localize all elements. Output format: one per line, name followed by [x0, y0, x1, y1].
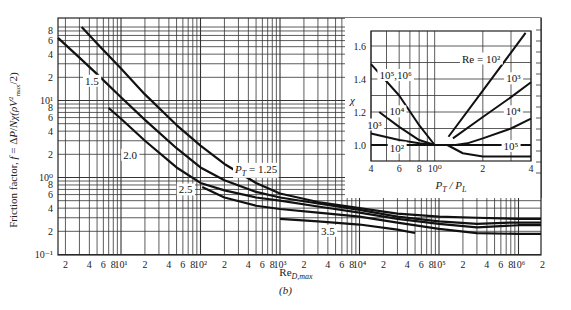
svg-text:10⁰: 10⁰ — [39, 172, 53, 183]
svg-text:10⁴: 10⁴ — [506, 105, 521, 117]
svg-text:4: 4 — [48, 49, 53, 60]
svg-text:4: 4 — [87, 259, 92, 270]
svg-text:2: 2 — [540, 259, 545, 270]
svg-text:4: 4 — [48, 126, 53, 137]
svg-text:2: 2 — [48, 226, 53, 237]
svg-text:4: 4 — [246, 259, 251, 270]
friction-factor-chart: 246810¹246810²246810³246810⁴246810⁵24681… — [0, 0, 571, 310]
y-axis-label: Friction factor, f = ΔP/Nχ(ρV2max/2) — [7, 72, 22, 228]
svg-text:10⁴: 10⁴ — [389, 105, 404, 117]
svg-text:2: 2 — [222, 259, 227, 270]
svg-text:1.4: 1.4 — [354, 74, 367, 85]
svg-text:2: 2 — [48, 72, 53, 83]
svg-text:10³: 10³ — [367, 119, 382, 131]
svg-text:4: 4 — [405, 259, 410, 270]
svg-text:10³: 10³ — [506, 72, 521, 84]
svg-text:4: 4 — [484, 259, 489, 270]
svg-text:1.2: 1.2 — [354, 107, 367, 118]
svg-text:4: 4 — [369, 163, 374, 174]
svg-text:8: 8 — [48, 25, 53, 36]
svg-text:6: 6 — [339, 259, 344, 270]
svg-text:6: 6 — [48, 35, 53, 46]
svg-text:10⁵: 10⁵ — [504, 140, 519, 152]
svg-text:10¹: 10¹ — [40, 95, 53, 106]
svg-text:10⁰: 10⁰ — [428, 163, 442, 174]
svg-text:10¹: 10¹ — [115, 259, 128, 270]
svg-text:10²: 10² — [390, 142, 405, 154]
svg-text:10⁴: 10⁴ — [353, 259, 367, 270]
svg-text:6: 6 — [180, 259, 185, 270]
svg-text:2: 2 — [48, 149, 53, 160]
svg-text:2: 2 — [480, 163, 485, 174]
svg-text:6: 6 — [498, 259, 503, 270]
svg-text:Re = 10²: Re = 10² — [462, 53, 501, 65]
svg-text:6: 6 — [101, 259, 106, 270]
svg-text:2: 2 — [460, 259, 465, 270]
svg-text:10⁵,10⁶: 10⁵,10⁶ — [379, 69, 412, 81]
svg-text:8: 8 — [417, 163, 422, 174]
inset-chart: 46810⁰241.01.21.41.6χPT / PLRe = 10²10⁵,… — [345, 18, 541, 198]
svg-text:1.0: 1.0 — [354, 140, 367, 151]
svg-text:4: 4 — [166, 259, 171, 270]
svg-text:6: 6 — [260, 259, 265, 270]
svg-text:2: 2 — [142, 259, 147, 270]
figure-caption: (b) — [0, 284, 571, 296]
svg-text:2: 2 — [301, 259, 306, 270]
svg-text:2.5: 2.5 — [179, 183, 193, 195]
x-axis-label: ReD,max — [279, 266, 313, 281]
svg-text:10⁻¹: 10⁻¹ — [35, 249, 53, 260]
svg-text:4: 4 — [48, 203, 53, 214]
svg-text:6: 6 — [419, 259, 424, 270]
svg-text:6: 6 — [48, 189, 53, 200]
svg-text:10²: 10² — [194, 259, 207, 270]
svg-text:1.6: 1.6 — [354, 41, 367, 52]
svg-text:4: 4 — [529, 163, 534, 174]
svg-text:2: 2 — [381, 259, 386, 270]
svg-text:10⁶: 10⁶ — [512, 259, 526, 270]
svg-text:6: 6 — [48, 112, 53, 123]
svg-text:2: 2 — [63, 259, 68, 270]
svg-text:2.0: 2.0 — [123, 149, 137, 161]
svg-text:3.5: 3.5 — [321, 225, 335, 237]
svg-text:10⁵: 10⁵ — [432, 259, 446, 270]
svg-text:6: 6 — [397, 163, 402, 174]
svg-text:4: 4 — [325, 259, 330, 270]
svg-text:1.5: 1.5 — [85, 75, 99, 87]
